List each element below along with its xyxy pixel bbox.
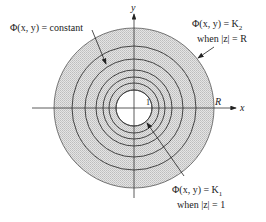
tick-1: 1: [146, 97, 150, 109]
label-constant: Φ(x, y) = constant: [10, 22, 83, 34]
label-inner-when: when |z| = 1: [177, 199, 225, 211]
tick-R: R: [215, 96, 221, 108]
label-outer: Φ(x, y) = K2: [192, 18, 242, 34]
x-axis-label: x: [240, 102, 244, 114]
outer-sub: 2: [239, 24, 243, 32]
arrow-outer: [198, 47, 214, 58]
inner-sub: 1: [219, 190, 223, 198]
label-inner: Φ(x, y) = K1: [172, 184, 222, 200]
y-axis-label: y: [131, 2, 135, 14]
inner-line1: Φ(x, y) = K: [172, 184, 219, 195]
label-outer-when: when |z| = R: [197, 33, 247, 45]
outer-line1: Φ(x, y) = K: [192, 18, 239, 29]
